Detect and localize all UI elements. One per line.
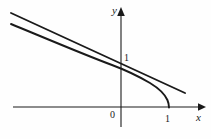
y-axis-label: y: [112, 5, 117, 16]
tangent-line: [11, 13, 185, 93]
figure-canvas: [0, 0, 211, 139]
y-axis-arrowhead: [117, 7, 125, 16]
origin-label: 0: [110, 110, 115, 120]
x-axis-arrowhead: [198, 103, 206, 111]
math-figure: y x 1 1 0: [0, 0, 211, 139]
y-tick-label-1: 1: [124, 53, 129, 63]
function-curve: [11, 24, 169, 108]
x-axis-label: x: [196, 112, 201, 123]
x-tick-label-1: 1: [165, 114, 170, 124]
